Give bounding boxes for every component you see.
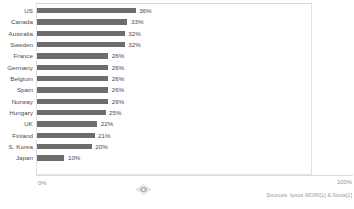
x-axis-tick-max: 100% [337, 179, 352, 186]
bar [37, 8, 136, 13]
bar-row: Germany26% [0, 62, 354, 73]
bar-category-label: France [0, 52, 33, 59]
bar-value-label: 26% [112, 75, 125, 82]
bar-value-label: 21% [98, 132, 111, 139]
bar-track: 26% [37, 50, 311, 61]
bar-value-label: 32% [128, 30, 141, 37]
bar-track: 36% [37, 5, 311, 16]
bar-category-label: Spain [0, 86, 33, 93]
bar-category-label: S. Korea [0, 143, 33, 150]
bar [37, 53, 108, 58]
bar-row: Canada33% [0, 16, 354, 27]
bar-track: 21% [37, 130, 311, 141]
bar-value-label: 25% [109, 109, 122, 116]
bar-row: Japan10% [0, 152, 354, 163]
bar-track: 26% [37, 73, 311, 84]
bar-category-label: Germany [0, 64, 33, 71]
watermark-logo-icon [135, 182, 152, 195]
bar [37, 87, 108, 92]
bar [37, 76, 108, 81]
bar-row: Hungary25% [0, 107, 354, 118]
bar [37, 65, 108, 70]
bar-row: France26% [0, 50, 354, 61]
bar-value-label: 26% [112, 64, 125, 71]
bar-category-label: Sweden [0, 41, 33, 48]
bar-category-label: Belgium [0, 75, 33, 82]
bar-track: 33% [37, 16, 311, 27]
bar-category-label: US [0, 7, 33, 14]
bar-row: Sweden32% [0, 39, 354, 50]
bar-track: 25% [37, 107, 311, 118]
bar [37, 110, 106, 115]
bar-value-label: 36% [139, 7, 152, 14]
bar-row: UK22% [0, 118, 354, 129]
bar-category-label: Canada [0, 18, 33, 25]
bar-value-label: 20% [95, 143, 108, 150]
bar [37, 144, 92, 149]
x-axis-tick-min: 0% [38, 180, 46, 187]
bar-track: 32% [37, 28, 311, 39]
bar-row: Australia32% [0, 28, 354, 39]
bar-value-label: 32% [128, 41, 141, 48]
source-attribution: Sources: Ipsos MORI[1] & Nova[1] [266, 192, 352, 199]
bar-value-label: 26% [112, 52, 125, 59]
bar-value-label: 22% [101, 120, 114, 127]
bar-row: Norway26% [0, 96, 354, 107]
bar [37, 99, 108, 104]
bar-row: US36% [0, 5, 354, 16]
bar-category-label: Norway [0, 98, 33, 105]
bar-track: 10% [37, 152, 311, 163]
bar-category-label: Japan [0, 154, 33, 161]
bar-category-label: UK [0, 120, 33, 127]
bar-category-label: Hungary [0, 109, 33, 116]
bar-row: Spain26% [0, 84, 354, 95]
bar-value-label: 10% [68, 154, 81, 161]
bar [37, 42, 125, 47]
bar-category-label: Australia [0, 30, 33, 37]
bar-row: Finland21% [0, 130, 354, 141]
bar-value-label: 26% [112, 86, 125, 93]
bar-track: 26% [37, 84, 311, 95]
bar [37, 19, 127, 24]
bar-row: S. Korea20% [0, 141, 354, 152]
bar-track: 32% [37, 39, 311, 50]
bar-track: 26% [37, 96, 311, 107]
bar-value-label: 26% [112, 98, 125, 105]
bar [37, 155, 64, 160]
x-axis-line [36, 175, 353, 176]
bar-category-label: Finland [0, 132, 33, 139]
horizontal-bar-chart: US36%Canada33%Australia32%Sweden32%Franc… [0, 0, 354, 209]
bar-track: 26% [37, 62, 311, 73]
bar-track: 22% [37, 118, 311, 129]
bar-row: Belgium26% [0, 73, 354, 84]
bar [37, 133, 95, 138]
bar-rows-container: US36%Canada33%Australia32%Sweden32%Franc… [0, 5, 354, 175]
bar [37, 121, 97, 126]
bar-track: 20% [37, 141, 311, 152]
bar-value-label: 33% [131, 18, 144, 25]
bar [37, 31, 125, 36]
